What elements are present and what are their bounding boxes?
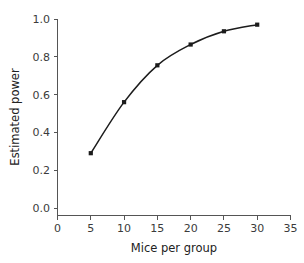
y-tick-label: 0.4 [33,126,51,139]
chart-figure: 0.00.20.40.60.81.0 05101520253035 Mice p… [0,0,304,263]
y-axis-title: Estimated power [8,68,22,166]
x-tick-label: 25 [217,222,231,235]
line-chart: 0.00.20.40.60.81.0 05101520253035 Mice p… [0,0,304,263]
x-tick-label: 35 [284,222,298,235]
x-tick-label: 20 [184,222,198,235]
y-tick-label: 0.2 [33,164,51,177]
data-point-marker [89,151,93,155]
x-tick-label: 15 [150,222,164,235]
y-tick-label: 0.6 [33,89,51,102]
y-tick-label: 0.8 [33,51,51,64]
x-tick-label: 30 [250,222,264,235]
y-tick-label: 0.0 [33,202,51,215]
y-tick-label: 1.0 [33,13,51,26]
data-point-marker [255,23,259,27]
data-point-marker [122,100,126,104]
data-point-marker [155,63,159,67]
data-point-marker [222,29,226,33]
x-tick-label: 0 [54,222,61,235]
x-axis-title: Mice per group [131,241,217,255]
data-point-marker [189,42,193,46]
x-tick-label: 5 [87,222,94,235]
x-tick-label: 10 [117,222,131,235]
